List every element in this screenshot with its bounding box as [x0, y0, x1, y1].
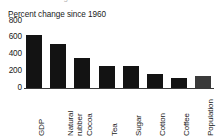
x-tick-label: Natural rubber	[67, 92, 84, 136]
bar-gdp	[26, 35, 42, 88]
x-tick-label: Tea	[111, 123, 120, 136]
x-tick-label: GDP	[38, 119, 47, 136]
plot-area: 8006004002000 GDPNatural rubberCocoaTeaS…	[0, 0, 221, 138]
x-tick-label: Cotton	[159, 113, 168, 136]
x-tick-label: Cocoa	[86, 113, 95, 136]
bar-population	[195, 76, 211, 88]
x-tick-label: Sugar	[135, 115, 144, 136]
bar-tea	[99, 66, 115, 88]
bar-cocoa	[74, 58, 90, 88]
bar-sugar	[123, 66, 139, 88]
bar-cotton	[147, 74, 163, 88]
x-tick-label: Population	[207, 99, 216, 136]
x-tick-label: Coffee	[183, 113, 192, 136]
bar-coffee	[171, 78, 187, 88]
bar-natural-rubber	[50, 44, 66, 88]
bar-chart: Percent change since 1960 Percent change…	[0, 0, 221, 138]
